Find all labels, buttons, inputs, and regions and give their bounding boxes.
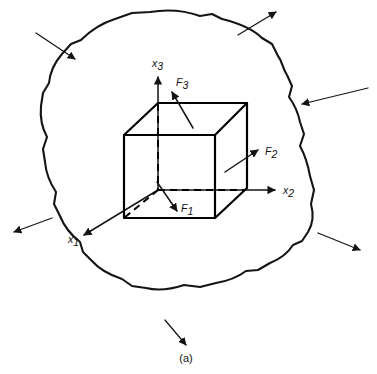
load-arrow-top-right <box>238 12 276 35</box>
force-arrow-F3 <box>172 92 193 128</box>
axis-label-x2: x2 <box>282 184 294 199</box>
axis-label-x1: x1 <box>67 233 79 248</box>
force-arrow-F1 <box>157 182 177 211</box>
force-label-F2: F2 <box>265 145 277 160</box>
load-arrow-right-upper <box>302 88 368 104</box>
load-arrow-right-lower <box>318 233 360 250</box>
cube-hidden-edge-to-front <box>124 190 158 218</box>
figure-container: x3 x2 x1 F3 F2 F1 (a) <box>0 0 377 374</box>
body-with-element-diagram: x3 x2 x1 F3 F2 F1 (a) <box>0 0 377 374</box>
cube-element-group <box>124 103 247 218</box>
axis-x1-line <box>84 190 158 235</box>
load-arrow-bottom <box>165 320 186 345</box>
load-arrow-left <box>14 218 52 232</box>
force-label-F3: F3 <box>176 76 188 91</box>
axis-label-x3: x3 <box>151 57 163 72</box>
force-label-F1: F1 <box>181 202 193 217</box>
boundary-load-arrows <box>14 12 368 345</box>
force-labels-group: F3 F2 F1 <box>176 76 277 217</box>
cube-top-face <box>124 103 247 135</box>
figure-caption: (a) <box>179 352 192 364</box>
force-arrow-F2 <box>225 150 258 172</box>
